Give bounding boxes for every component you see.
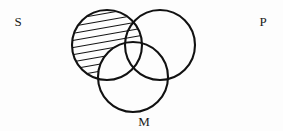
venn-diagram-canvas: S P M [0,0,283,131]
label-subject-s: S [14,14,21,29]
label-middle-m: M [138,114,150,129]
venn-diagram-figure: S P M [0,0,283,131]
label-predicate-p: P [259,14,266,29]
